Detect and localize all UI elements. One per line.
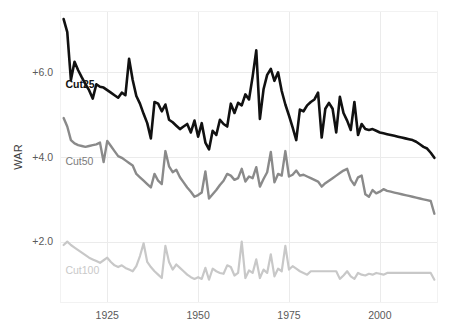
x-tick-label-1950: 1950 <box>186 309 210 321</box>
chart-container: 1925195019752000 +6.0+4.0+2.0 Cut25Cut50… <box>0 0 458 335</box>
series-label-cut50: Cut50 <box>65 155 93 167</box>
x-tick-label-2000: 2000 <box>368 309 392 321</box>
war-line-chart: 1925195019752000 +6.0+4.0+2.0 Cut25Cut50… <box>0 0 458 335</box>
y-axis-title-text: WAR <box>12 144 24 169</box>
x-tick-label-1925: 1925 <box>96 309 120 321</box>
series-label-cut100: Cut100 <box>65 264 99 276</box>
series-label-cut25: Cut25 <box>65 78 94 90</box>
y-tick-label-plus6-0: +6.0 <box>32 66 53 78</box>
x-tick-label-1975: 1975 <box>277 309 301 321</box>
y-axis-title: WAR <box>12 144 24 169</box>
gridlines <box>60 11 438 303</box>
y-tick-label-plus2-0: +2.0 <box>32 235 53 247</box>
y-tick-label-plus4-0: +4.0 <box>32 151 53 163</box>
